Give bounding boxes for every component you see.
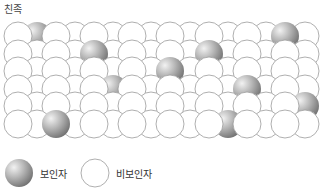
circle-row [4,110,319,138]
noncarrier-circle [118,110,146,138]
shaded-sphere-icon [4,158,34,188]
noncarrier-circle [233,110,261,138]
legend-noncarrier: 비보인자 [80,159,152,187]
empty-circle-icon [80,158,110,188]
noncarrier-circle [80,110,108,138]
noncarrier-circle [4,110,32,138]
legend-noncarrier-label: 비보인자 [116,166,152,181]
carrier-sphere [42,110,70,138]
legend-carrier-label: 보인자 [40,166,67,181]
legend-carrier: 보인자 [4,159,67,187]
noncarrier-circle [271,110,299,138]
noncarrier-circle [156,110,184,138]
noncarrier-circle [195,110,223,138]
circle-rows [4,22,319,138]
